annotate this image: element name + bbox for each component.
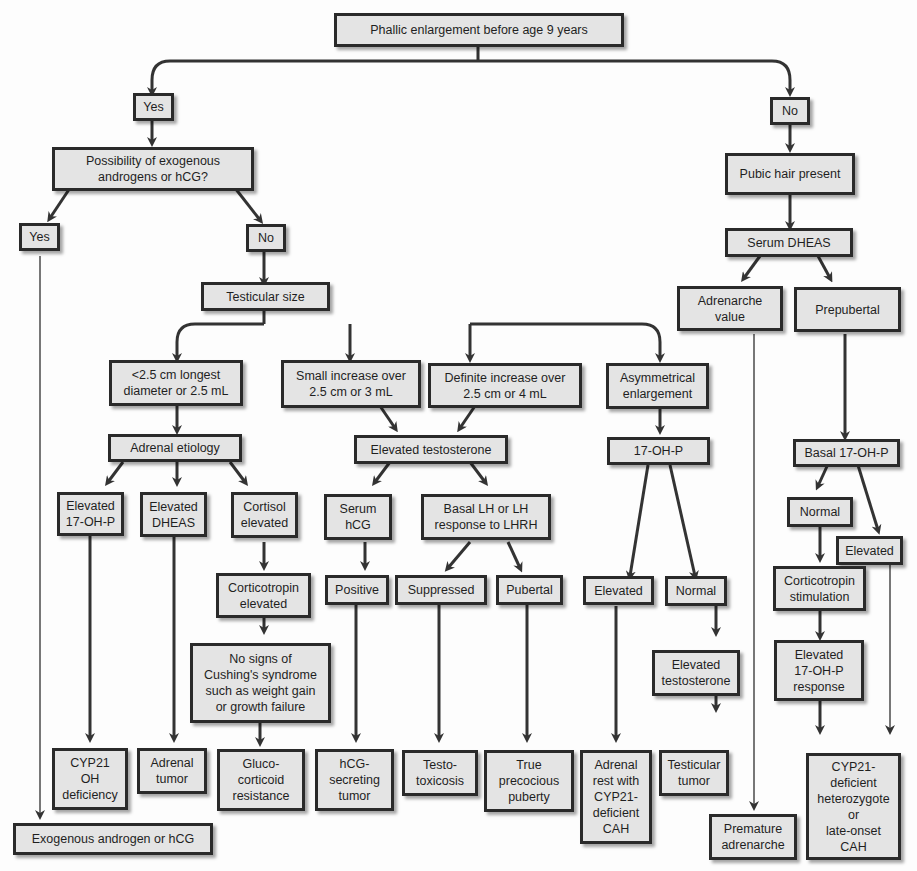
node-adrenal-rest: Adrenal rest with CYP21- deficient CAH: [580, 750, 652, 844]
node-root: Phallic enlargement before age 9 years: [334, 13, 624, 47]
node-17ohp-asym: 17-OH-P: [607, 437, 710, 465]
node-definite-increase: Definite increase over 2.5 cm or 4 mL: [428, 363, 582, 408]
node-basal-lh: Basal LH or LH response to LHRH: [421, 494, 551, 540]
node-true-precocious-puberty: True precocious puberty: [484, 750, 574, 812]
node-pubertal: Pubertal: [496, 575, 563, 605]
node-no-2: No: [246, 224, 286, 252]
node-asym-elevated-testosterone: Elevated testosterone: [652, 650, 740, 696]
node-right-elevated: Elevated: [836, 536, 903, 565]
node-no-cushing: No signs of Cushing's syndrome such as w…: [190, 643, 331, 723]
node-asym-normal: Normal: [665, 576, 727, 606]
node-pubic-hair: Pubic hair present: [725, 153, 855, 195]
node-testotoxicosis: Testo- toxicosis: [402, 750, 478, 796]
node-yes-1: Yes: [133, 93, 174, 121]
node-yes-2: Yes: [19, 223, 60, 251]
node-asymmetrical: Asymmetrical enlargement: [606, 363, 709, 409]
node-exogenous-androgen: Exogenous androgen or hCG: [13, 823, 213, 855]
node-asym-elevated: Elevated: [583, 576, 654, 605]
node-elevated-17ohp: Elevated 17-OH-P: [57, 492, 124, 536]
node-basal-17ohp: Basal 17-OH-P: [793, 439, 900, 467]
node-small-testes: <2.5 cm longest diameter or 2.5 mL: [109, 360, 243, 406]
node-elevated-dheas: Elevated DHEAS: [140, 492, 207, 537]
node-premature-adrenarche: Premature adrenarche: [709, 814, 797, 860]
node-elevated-testosterone: Elevated testosterone: [354, 435, 508, 464]
node-small-increase: Small increase over 2.5 cm or 3 mL: [281, 360, 421, 408]
node-glucocorticoid-resistance: Gluco- corticoid resistance: [217, 749, 305, 811]
node-corticotropin-elevated: Corticotropin elevated: [216, 573, 311, 618]
node-prepubertal: Prepubertal: [794, 287, 901, 332]
node-no-1: No: [770, 97, 810, 125]
node-adrenarche-value: Adrenarche value: [677, 286, 783, 331]
node-testicular-tumor: Testicular tumor: [659, 750, 729, 796]
node-right-normal: Normal: [787, 497, 853, 527]
flowchart-canvas: Phallic enlargement before age 9 years Y…: [0, 0, 917, 871]
node-cyp21-oh-deficiency: CYP21 OH deficiency: [52, 748, 128, 810]
node-testicular-size: Testicular size: [201, 282, 330, 311]
node-positive: Positive: [325, 575, 389, 605]
node-adrenal-tumor: Adrenal tumor: [137, 748, 207, 794]
node-hcg-secreting-tumor: hCG- secreting tumor: [315, 749, 394, 811]
node-serum-dheas: Serum DHEAS: [725, 228, 853, 257]
node-cortisol-elevated: Cortisol elevated: [231, 492, 298, 538]
node-cyp21-heterozygote: CYP21- deficient heterozygote or late-on…: [806, 753, 901, 860]
node-suppressed: Suppressed: [395, 575, 487, 605]
node-serum-hcg: Serum hCG: [324, 494, 392, 540]
node-elevated-17ohp-response: Elevated 17-OH-P response: [774, 640, 864, 701]
node-adrenal-etiology: Adrenal etiology: [108, 434, 242, 462]
node-exogenous-question: Possibility of exogenous androgens or hC…: [52, 147, 254, 191]
node-corticotropin-stimulation: Corticotropin stimulation: [773, 566, 866, 611]
